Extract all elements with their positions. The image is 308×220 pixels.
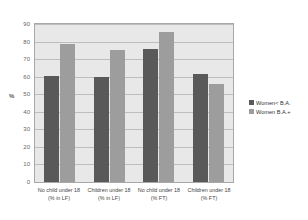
x-tick-label-line1: No child under 18 [138,187,180,193]
x-tick-label: No child under 18(% FT) [134,186,184,202]
bar [193,74,208,182]
bar [60,44,75,182]
y-tick-label: 70 [23,56,30,62]
legend-swatch-icon [249,100,254,105]
y-tick-label: 90 [23,21,30,27]
legend: Women< B.A.Women B.A.+ [249,98,291,116]
bar-group [85,24,135,182]
x-tick-label: Children under 18(% in LF) [84,186,134,202]
legend-swatch-icon [249,109,254,114]
x-tick-label-line2: (% FT) [134,194,184,202]
x-tick-label-line2: (% FT) [184,194,234,202]
bar [44,76,59,182]
bar-group [35,24,85,182]
x-tick-label-line2: (% in LF) [84,194,134,202]
legend-item[interactable]: Women< B.A. [249,98,291,107]
y-tick-label: 20 [23,144,30,150]
x-tick-label-line1: Children under 18 [88,187,131,193]
bar [94,77,109,182]
legend-item[interactable]: Women B.A.+ [249,107,291,116]
legend-label: Women< B.A. [256,100,291,106]
bar [110,50,125,182]
x-tick-label-line1: No child under 18 [38,187,80,193]
y-axis-ticks: 9080706050403020100 [14,23,30,183]
x-axis-labels: No child under 18(% in LF)Children under… [34,186,234,202]
bar [143,49,158,182]
y-tick-label: 0 [27,179,30,185]
bar-group [134,24,184,182]
y-tick-label: 30 [23,126,30,132]
plot-area [34,23,234,183]
x-tick-label: No child under 18(% in LF) [34,186,84,202]
y-tick-label: 10 [23,161,30,167]
bar [159,32,174,182]
bar-groups [35,24,233,182]
bar-group [184,24,234,182]
legend-label: Women B.A.+ [256,109,291,115]
y-tick-label: 50 [23,91,30,97]
x-tick-label-line2: (% in LF) [34,194,84,202]
bar [209,84,224,182]
y-tick-label: 60 [23,74,30,80]
y-tick-label: 40 [23,109,30,115]
y-tick-label: 80 [23,39,30,45]
x-tick-label-line1: Children under 18 [188,187,231,193]
x-tick-label: Children under 18(% FT) [184,186,234,202]
bar-chart: % 9080706050403020100 No child under 18(… [0,0,308,220]
